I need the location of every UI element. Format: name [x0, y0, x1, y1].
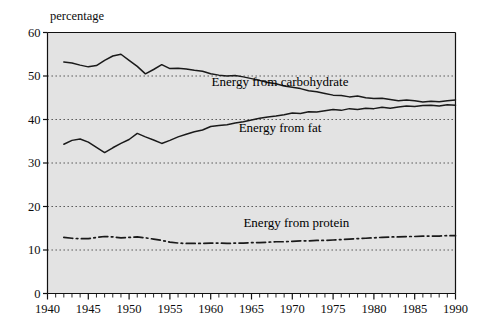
x-tick-label: 1960	[198, 302, 223, 316]
x-tick-label: 1950	[117, 302, 142, 316]
x-tick-label: 1990	[443, 302, 468, 316]
y-tick-label: 40	[28, 113, 41, 127]
y-axis-title: percentage	[50, 9, 105, 23]
x-tick-label: 1955	[157, 302, 182, 316]
x-tick-label: 1945	[76, 302, 101, 316]
y-tick-label: 30	[28, 156, 41, 170]
x-tick-label: 1980	[361, 302, 386, 316]
chart-container: 0102030405060 19401945195019551960196519…	[0, 0, 482, 327]
series-label: Energy from carbohydrate	[212, 74, 349, 89]
y-tick-label: 20	[28, 200, 41, 214]
x-tick-label: 1965	[239, 302, 264, 316]
y-tick-label: 50	[28, 69, 41, 83]
y-tick-label: 60	[28, 26, 41, 40]
x-tick-label: 1940	[35, 302, 60, 316]
line-chart: 0102030405060 19401945195019551960196519…	[0, 0, 482, 327]
series-label: Energy from protein	[243, 215, 349, 230]
x-tick-label: 1975	[321, 302, 346, 316]
series-label: Energy from fat	[239, 120, 322, 135]
x-tick-label: 1970	[280, 302, 305, 316]
x-tick-label: 1985	[402, 302, 427, 316]
y-tick-label: 10	[28, 243, 41, 257]
y-tick-label: 0	[34, 287, 40, 301]
